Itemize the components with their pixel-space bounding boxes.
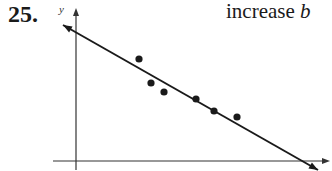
scatter-plot xyxy=(0,0,332,171)
x-axis xyxy=(53,158,330,164)
data-point xyxy=(233,113,240,120)
fit-line-arrow-icon xyxy=(308,163,318,170)
data-point xyxy=(192,95,199,102)
data-point xyxy=(160,88,167,95)
data-point xyxy=(210,107,217,114)
data-points xyxy=(135,55,240,120)
y-axis-arrow-icon xyxy=(73,8,79,16)
x-axis-arrow-icon xyxy=(322,158,330,164)
fit-line xyxy=(63,25,318,170)
data-point xyxy=(135,55,142,62)
fit-line-arrow-icon xyxy=(63,25,73,32)
data-point xyxy=(147,79,154,86)
